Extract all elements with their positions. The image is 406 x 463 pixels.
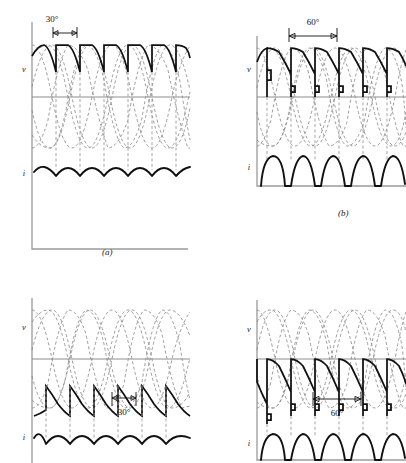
panel-b-voltage-label: v xyxy=(247,64,251,74)
panel-a-current-wave xyxy=(34,167,190,176)
panel-d: 60° v i xyxy=(205,288,406,463)
panel-a-voltage-wave xyxy=(32,45,190,72)
panel-c-current-label: i xyxy=(23,432,26,442)
panel-d-drop-lines xyxy=(267,416,387,436)
panel-a-drop-lines xyxy=(56,72,176,170)
panel-d-plot: 60° v i xyxy=(205,288,406,463)
panel-a-plot: 30° v i xyxy=(0,0,205,270)
panel-c-voltage-label: v xyxy=(22,322,26,332)
panel-b: 60° v i (b) xyxy=(205,0,406,230)
panel-c-plot: 30° v i xyxy=(0,288,205,463)
panel-a-angle-dimension xyxy=(53,27,77,38)
panel-b-caption: (b) xyxy=(338,208,349,218)
panel-b-angle-dimension xyxy=(289,28,337,42)
panel-c: 30° v i xyxy=(0,288,205,463)
panel-b-current-label: i xyxy=(248,162,251,172)
panel-a-angle-label: 30° xyxy=(46,14,59,24)
panel-a-voltage-label: v xyxy=(22,64,26,74)
panel-d-current-label: i xyxy=(248,438,251,448)
panel-d-frame xyxy=(257,300,406,460)
panel-b-current-wave xyxy=(261,156,405,186)
panel-a: 30° v i (a) xyxy=(0,0,205,270)
panel-d-current-wave xyxy=(261,434,405,460)
waveform-figure: 30° v i (a) xyxy=(0,0,406,463)
panel-c-current-wave xyxy=(34,434,190,444)
panel-a-caption: (a) xyxy=(102,247,113,257)
panel-b-angle-label: 60° xyxy=(307,17,320,27)
panel-d-angle-label: 60° xyxy=(331,408,344,418)
panel-d-voltage-label: v xyxy=(247,324,251,334)
panel-b-plot: 60° v i xyxy=(205,0,406,230)
panel-a-current-label: i xyxy=(23,168,26,178)
panel-c-angle-label: 30° xyxy=(118,407,131,417)
